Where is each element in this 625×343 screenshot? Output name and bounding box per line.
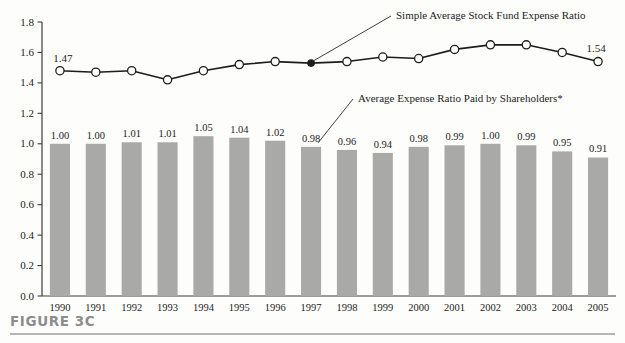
bar [86, 144, 106, 296]
line-start-value-label: 1.47 [53, 52, 73, 64]
line-series-path [60, 45, 598, 80]
x-axis-tick-label: 2003 [516, 302, 537, 313]
bar-value-label: 1.00 [87, 130, 105, 141]
line-marker [594, 57, 602, 65]
line-marker [415, 54, 423, 62]
bar-value-label: 1.00 [481, 130, 499, 141]
x-axis-tick-label: 1995 [229, 302, 250, 313]
x-axis-tick-label: 1993 [157, 302, 178, 313]
bar [445, 145, 465, 296]
bar-value-label: 0.99 [517, 131, 535, 142]
bar [301, 147, 321, 296]
bar-value-label: 1.05 [194, 122, 212, 133]
bar-value-label: 1.02 [266, 127, 284, 138]
x-axis-tick-label: 1991 [85, 302, 106, 313]
y-axis-tick-label: 1.0 [20, 137, 34, 149]
bar [516, 145, 536, 296]
y-axis-tick-label: 0.2 [20, 259, 34, 271]
x-axis-tick-label: 1998 [336, 302, 357, 313]
y-axis-tick-label: 0.0 [20, 290, 34, 302]
x-axis-tick-label: 2005 [588, 302, 609, 313]
line-marker [128, 67, 136, 75]
bars-layer: 1.001.001.011.011.051.041.020.980.960.94… [50, 122, 608, 296]
x-axis-tick-label: 1997 [301, 302, 322, 313]
y-axis-tick-label: 1.4 [20, 76, 34, 88]
bar-value-label: 0.94 [374, 139, 393, 150]
bar-value-label: 0.98 [302, 133, 320, 144]
bar [480, 144, 500, 296]
figure-caption: FIGURE 3C [10, 313, 95, 329]
caption-divider [10, 333, 615, 335]
x-axis-tick-label: 2004 [552, 302, 574, 313]
bar-value-label: 1.00 [51, 130, 69, 141]
x-axis-tick-label: 2000 [408, 302, 429, 313]
bar-value-label: 0.95 [553, 137, 571, 148]
annotation-layer: Simple Average Stock Fund Expense RatioA… [313, 9, 586, 143]
bar [158, 142, 178, 296]
y-axis-tick-label: 1.2 [20, 107, 34, 119]
line-marker [486, 41, 494, 49]
bar [588, 157, 608, 296]
y-axis-tick-label: 0.8 [20, 168, 34, 180]
bar-value-label: 0.91 [589, 143, 607, 154]
x-axis-tick-label: 1996 [265, 302, 286, 313]
bar [373, 153, 393, 296]
bar [50, 144, 70, 296]
bar-value-label: 0.99 [445, 131, 463, 142]
expense-ratio-chart: 0.00.20.40.60.81.01.21.41.61.81990199119… [0, 0, 625, 343]
bar-series-callout-label: Average Expense Ratio Paid by Shareholde… [358, 92, 563, 104]
bar [337, 150, 357, 296]
bar [122, 142, 142, 296]
line-series-layer: 1.471.54 [53, 41, 606, 84]
bar-value-label: 0.96 [338, 136, 356, 147]
line-marker [199, 67, 207, 75]
line-marker [450, 45, 458, 53]
line-marker [379, 53, 387, 61]
line-end-value-label: 1.54 [586, 42, 606, 54]
line-marker [271, 57, 279, 65]
x-axis-tick-label: 1994 [193, 302, 215, 313]
y-axis-tick-label: 0.4 [20, 229, 34, 241]
bar-value-label: 1.04 [230, 124, 249, 135]
y-axis-tick-label: 1.8 [20, 16, 34, 28]
x-axis-tick-label: 1990 [49, 302, 70, 313]
y-axis-tick-label: 1.6 [20, 46, 34, 58]
x-axis-tick-label: 1992 [121, 302, 142, 313]
bar-value-label: 0.98 [410, 133, 428, 144]
line-marker [522, 41, 530, 49]
bar-value-label: 1.01 [123, 128, 141, 139]
y-axis-tick-label: 0.6 [20, 198, 34, 210]
x-axis-tick-label: 1999 [372, 302, 393, 313]
bar [552, 151, 572, 296]
line-marker [558, 48, 566, 56]
figure-container: 0.00.20.40.60.81.01.21.41.61.81990199119… [0, 0, 625, 343]
bar [229, 138, 249, 296]
line-marker [343, 57, 351, 65]
x-axis-tick-label: 2002 [480, 302, 501, 313]
x-axis-tick-label: 2001 [444, 302, 465, 313]
line-series-callout-label: Simple Average Stock Fund Expense Ratio [396, 9, 586, 21]
line-marker [235, 61, 243, 69]
bar-value-label: 1.01 [158, 128, 176, 139]
line-marker [163, 76, 171, 84]
line-marker [56, 67, 64, 75]
bar [265, 141, 285, 296]
bar [409, 147, 429, 296]
line-marker [92, 68, 100, 76]
bar [193, 136, 213, 296]
